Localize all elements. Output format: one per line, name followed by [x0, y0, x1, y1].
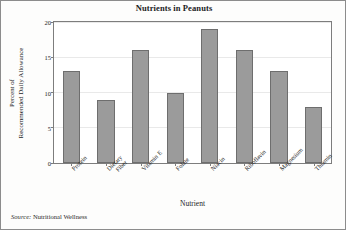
plot-area: 05101520ProteinDietaryFiberVitamin EFola…: [53, 21, 332, 164]
gridline: [54, 127, 331, 128]
bar: [63, 71, 80, 163]
chart-title: Nutrients in Peanuts: [1, 3, 346, 13]
y-axis-tick-mark: [51, 163, 54, 164]
bar: [201, 29, 218, 163]
y-axis-tick-mark: [51, 22, 54, 23]
y-axis-tick-label: 5: [48, 124, 51, 131]
y-axis-tick-label: 10: [45, 89, 52, 96]
gridline: [54, 92, 331, 93]
bar: [305, 107, 322, 163]
y-axis-title-text: Percent of Recommended Daily Allowance: [8, 48, 25, 139]
bar: [236, 50, 253, 163]
source-label: Source:: [11, 213, 31, 220]
y-axis-tick-mark: [51, 57, 54, 58]
source-note: Source: Nutritional Wellness: [11, 213, 87, 220]
bar: [132, 50, 149, 163]
bar: [270, 71, 287, 163]
y-axis-tick-mark: [51, 127, 54, 128]
y-axis-title-line-1: Percent of: [8, 48, 17, 139]
y-axis-tick-label: 20: [45, 19, 52, 26]
y-axis-tick-label: 15: [45, 54, 52, 61]
bar: [97, 100, 114, 163]
gridline: [54, 57, 331, 58]
x-axis-title: Nutrient: [53, 199, 332, 208]
bar: [167, 93, 184, 164]
chart-figure: Nutrients in Peanuts Percent of Recommen…: [0, 0, 346, 230]
y-axis-tick-mark: [51, 92, 54, 93]
y-axis-title-line-2: Recommended Daily Allowance: [16, 48, 25, 139]
gridline: [54, 22, 331, 23]
source-value: Nutritional Wellness: [33, 213, 87, 220]
y-axis-title: Percent of Recommended Daily Allowance: [5, 21, 27, 165]
y-axis-tick-label: 0: [48, 160, 51, 167]
